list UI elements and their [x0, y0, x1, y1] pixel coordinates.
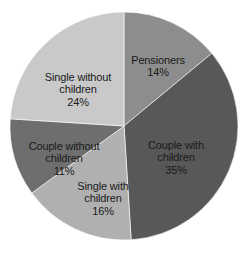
- slice-label-couple-with-children-text: Couple with children: [148, 139, 204, 164]
- slice-label-pensioners-text: Pensioners: [131, 54, 185, 66]
- slice-label-single-without-children: Single without children 24%: [28, 58, 128, 121]
- slice-label-pensioners-value: 14%: [116, 66, 200, 79]
- pie-chart: Pensioners 14% Couple with children 35% …: [0, 0, 252, 255]
- slice-label-single-without-children-text: Single without children: [45, 71, 111, 96]
- slice-label-couple-without-children: Couple without children 11%: [12, 127, 116, 190]
- slice-label-couple-with-children: Couple with children 35%: [134, 126, 218, 189]
- slice-label-single-without-children-value: 24%: [28, 96, 128, 109]
- slice-label-couple-without-children-value: 11%: [12, 165, 116, 178]
- slice-label-pensioners: Pensioners 14%: [116, 41, 200, 91]
- slice-label-couple-with-children-value: 35%: [134, 164, 218, 177]
- slice-label-couple-without-children-text: Couple without children: [29, 140, 100, 165]
- slice-label-single-with-children-value: 16%: [60, 205, 146, 218]
